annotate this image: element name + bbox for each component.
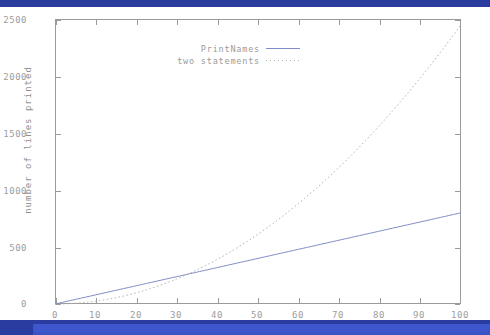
series-line-two-statements	[55, 25, 461, 304]
top-accent-band	[0, 0, 490, 7]
chart-series-svg	[0, 7, 490, 320]
chart-plot-area: 2500 2000 1500 1000 500 0 0 10 20 30 40 …	[0, 7, 490, 320]
bottom-accent-band-inner	[34, 324, 489, 332]
series-line-printnames	[55, 213, 461, 304]
